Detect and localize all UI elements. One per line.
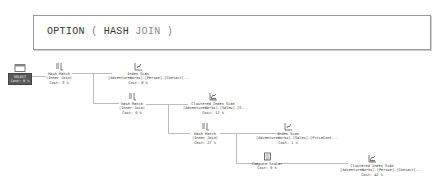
plan-node-index-scan[interactable]: Index Scan [AdventureWorks].[Sales].[Pri…	[256, 122, 320, 145]
open-paren: (	[91, 26, 97, 37]
plan-node-hash-match[interactable]: Hash Match (Inner Join) Cost: 3 %	[44, 62, 74, 85]
node-cost: Cost: 0 %	[10, 79, 30, 83]
plan-node-compute-scalar[interactable]: Compute Scalar Cost: 0 %	[252, 152, 282, 171]
plan-node-clustered-index-scan[interactable]: Clustered Index Scan [AdventureWorks].[S…	[183, 92, 243, 115]
join-keyword: JOIN	[135, 26, 160, 37]
index-scan-icon	[134, 62, 143, 71]
hash-match-icon	[55, 62, 64, 71]
connector-line	[72, 73, 112, 74]
node-cost: Cost: 12 %	[183, 111, 243, 115]
plan-node-index-scan[interactable]: Index Scan [AdventureWorks].[Person].[Co…	[108, 62, 168, 85]
node-cost: Cost: 3 %	[44, 81, 74, 85]
plan-node-hash-match[interactable]: Hash Match (Inner Join) Cost: 6 %	[117, 92, 147, 115]
node-cost: Cost: 1 %	[256, 141, 320, 145]
node-cost: Cost: 42 %	[340, 173, 404, 177]
plan-node-clustered-index-scan[interactable]: Clustered Index Scan [AdventureWorks].[P…	[340, 154, 404, 177]
plan-node-select[interactable]: SELECT Cost: 0 %	[8, 64, 32, 85]
hash-match-icon	[128, 92, 137, 101]
connector-line	[146, 104, 188, 105]
close-paren: )	[167, 26, 173, 37]
node-cost: Cost: 8 %	[108, 81, 168, 85]
hash-match-icon	[201, 122, 210, 131]
connector-line	[278, 163, 348, 164]
node-cost: Cost: 27 %	[190, 141, 220, 145]
connector-line	[168, 133, 190, 134]
select-icon	[14, 64, 26, 72]
node-cost: Cost: 0 %	[252, 166, 282, 170]
connector-line	[236, 133, 237, 163]
plan-node-hash-match[interactable]: Hash Match (Inner Join) Cost: 27 %	[190, 122, 220, 145]
query-hint-text: OPTION ( HASH JOIN )	[47, 26, 173, 37]
connector-line	[168, 104, 169, 133]
connector-line	[93, 73, 94, 103]
clustered-index-scan-icon	[368, 154, 377, 163]
clustered-index-scan-icon	[209, 92, 218, 101]
hash-keyword: HASH	[104, 26, 129, 37]
option-keyword: OPTION	[47, 26, 85, 37]
select-label: SELECT Cost: 0 %	[8, 73, 32, 85]
node-cost: Cost: 6 %	[117, 111, 147, 115]
connector-line	[93, 103, 119, 104]
query-hint-box: OPTION ( HASH JOIN )	[33, 15, 431, 50]
compute-scalar-icon	[263, 152, 272, 161]
index-scan-icon	[284, 122, 293, 131]
